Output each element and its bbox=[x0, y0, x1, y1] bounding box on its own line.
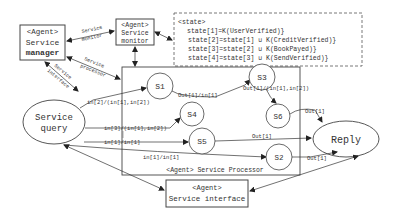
manager-name-line2: manager bbox=[26, 48, 60, 57]
query-label-1: Service bbox=[35, 113, 73, 123]
s1-label: S1 bbox=[155, 82, 165, 91]
service-agent-diagram: <Agent> Service manager <Agent> Service … bbox=[0, 0, 393, 213]
edge-label-q-s1: in[2]/(in[1],in[2]) bbox=[87, 99, 150, 106]
state-s2: S2 bbox=[266, 144, 292, 170]
edge-label-s5-reply: Out[1] bbox=[252, 133, 272, 140]
s3-label: S3 bbox=[257, 73, 267, 82]
edge-label-s3-s6: Out[1]/(in[1],in[2]) bbox=[243, 85, 309, 92]
edge-label-q-s4: in[3]/(in[1],in[2]) bbox=[104, 125, 167, 132]
state-line-2: state[2]=state[1] ∪ K(CreditVerified)} bbox=[188, 37, 336, 44]
state-line-1: state[1]=K(UserVerified)} bbox=[187, 28, 285, 35]
state-line-4: state[4]=state[3] ∪ K(SendVerified)} bbox=[188, 55, 329, 62]
state-box: <state> state[1]=K(UserVerified)} state[… bbox=[174, 13, 362, 66]
s5-label: S5 bbox=[197, 137, 207, 146]
state-s5: S5 bbox=[189, 128, 215, 154]
s4-label: S4 bbox=[187, 110, 197, 119]
interface-stereotype: <Agent> bbox=[192, 184, 221, 192]
s2-label: S2 bbox=[274, 154, 283, 162]
monitor-name-line2: monitor bbox=[121, 38, 148, 45]
state-line-3: state[3]=state[2] ∪ K(BookPayed)} bbox=[188, 46, 317, 53]
interface-name: Service interface bbox=[169, 195, 246, 203]
service-query-node: Service query bbox=[23, 100, 85, 144]
edge-label-s2-reply: Out[1] bbox=[307, 155, 327, 162]
manager-stereotype: <Agent> bbox=[27, 28, 59, 36]
manager-name-line1: Service bbox=[26, 38, 60, 47]
edge-query-interface bbox=[64, 145, 164, 190]
state-s1: S1 bbox=[147, 73, 173, 99]
monitor-name-line1: Service bbox=[121, 30, 148, 37]
edge-label-q-s2: in[1]/in[1] bbox=[143, 154, 179, 161]
edge-label-s1-s3: Out[1]/in[1] bbox=[178, 92, 218, 99]
state-title: <state> bbox=[178, 19, 205, 26]
state-s4: S4 bbox=[180, 102, 204, 126]
service-monitor-agent: <Agent> Service monitor bbox=[116, 19, 154, 45]
edge-reply-interface bbox=[250, 156, 358, 191]
processor-label: <Agent> Service Processor bbox=[166, 167, 264, 174]
edge-label-q-s5: in[1]/in[1] bbox=[104, 139, 140, 146]
reply-node: Reply bbox=[313, 121, 379, 157]
reply-label: Reply bbox=[331, 135, 361, 146]
monitor-stereotype: <Agent> bbox=[121, 22, 148, 29]
state-s6: S6 bbox=[266, 104, 290, 128]
query-label-2: query bbox=[40, 124, 68, 134]
s6-label: S6 bbox=[273, 113, 283, 121]
service-interface-agent: <Agent> Service interface bbox=[166, 180, 248, 207]
edge-monitor-state bbox=[155, 32, 172, 40]
edge-label-s6-reply: Out[1] bbox=[305, 108, 325, 115]
service-manager-agent: <Agent> Service manager bbox=[20, 25, 65, 60]
